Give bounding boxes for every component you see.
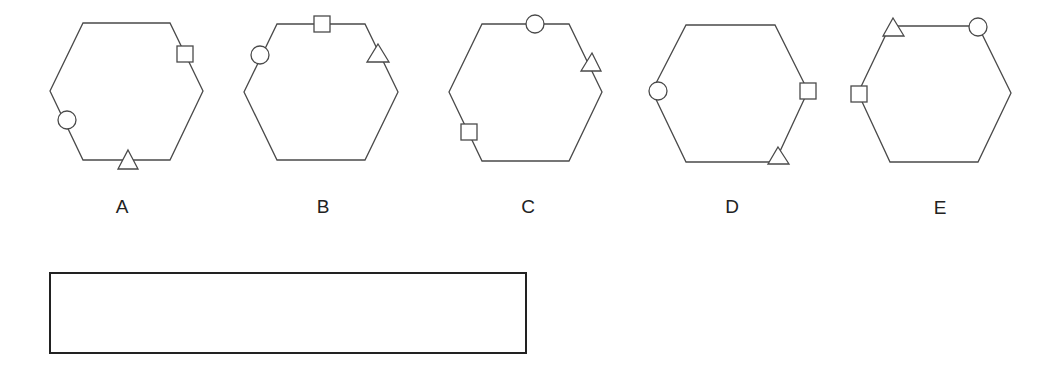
circle-icon bbox=[969, 18, 987, 36]
circle-icon bbox=[649, 82, 667, 100]
option-label-b: B bbox=[317, 197, 330, 216]
option-c[interactable] bbox=[449, 15, 602, 161]
option-a[interactable] bbox=[50, 23, 203, 169]
puzzle-figure: A B C D E bbox=[0, 0, 1047, 377]
option-d[interactable] bbox=[649, 25, 816, 164]
hexagon-outline bbox=[858, 26, 1011, 162]
circle-icon bbox=[58, 111, 76, 129]
hexagon-outline bbox=[50, 23, 203, 160]
square-icon bbox=[851, 86, 867, 102]
option-label-d: D bbox=[725, 197, 739, 216]
triangle-icon bbox=[367, 44, 389, 62]
square-icon bbox=[177, 46, 193, 62]
option-e[interactable] bbox=[851, 18, 1011, 162]
answer-box[interactable] bbox=[49, 272, 527, 354]
option-label-e: E bbox=[934, 198, 947, 217]
option-b[interactable] bbox=[244, 16, 398, 160]
square-icon bbox=[800, 83, 816, 99]
circle-icon bbox=[526, 15, 544, 33]
hexagon-outline bbox=[244, 24, 398, 160]
hexagon-outline bbox=[652, 25, 808, 162]
triangle-icon bbox=[883, 18, 904, 36]
option-label-c: C bbox=[521, 197, 535, 216]
square-icon bbox=[461, 124, 477, 140]
square-icon bbox=[314, 16, 330, 32]
circle-icon bbox=[251, 46, 269, 64]
option-label-a: A bbox=[116, 197, 129, 216]
triangle-icon bbox=[768, 147, 789, 164]
